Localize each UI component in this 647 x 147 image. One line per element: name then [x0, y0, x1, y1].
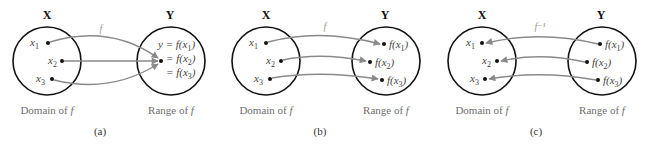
svg-text:x3: x3	[469, 72, 479, 87]
set-y-title: Y	[166, 8, 175, 22]
inverse-function-label: f⁻¹	[534, 21, 545, 32]
set-x-title: X	[262, 8, 271, 22]
set-y-title: Y	[381, 8, 390, 22]
panel-b: X Y x1 x2 x3 f f(x1) f(x2) f(x	[232, 8, 420, 138]
panel-label: (a)	[94, 125, 107, 138]
domain-element-x3: x3	[469, 72, 487, 87]
range-element-fx2: f(x2)	[585, 56, 612, 71]
range-caption: Range of f	[363, 104, 411, 116]
range-element-fx1: f(x1)	[598, 38, 625, 53]
domain-element-x3: x3	[35, 72, 54, 87]
range-caption: Range of f	[148, 104, 196, 116]
function-mapping-figure: X Y x1 x2 x3 f y = f(x1) = f(x2) = f(x3)…	[0, 0, 647, 147]
function-label: f	[100, 23, 104, 34]
set-x-title: X	[478, 8, 487, 22]
svg-text:f(x1): f(x1)	[389, 38, 409, 53]
range-element-fx3: f(x3)	[596, 74, 623, 89]
svg-text:x2: x2	[265, 54, 275, 69]
domain-element-x1: x1	[465, 36, 484, 51]
panel-a: X Y x1 x2 x3 f y = f(x1) = f(x2) = f(x3)…	[13, 8, 205, 138]
range-element-fx1: f(x1)	[382, 38, 409, 53]
domain-element-x2: x2	[47, 54, 64, 69]
range-element-2: = f(x2)	[166, 52, 196, 67]
arrow-x1-to-y	[50, 36, 158, 58]
set-x-title: X	[43, 8, 52, 22]
panel-c: X Y x1 x2 x3 f⁻¹ f(x1) f(x2) f	[448, 8, 636, 138]
svg-text:x1: x1	[248, 36, 258, 51]
domain-element-x1: x1	[29, 36, 50, 51]
domain-caption: Domain of f	[20, 104, 75, 116]
range-element-fx2: f(x2)	[368, 56, 395, 71]
svg-text:f(x3): f(x3)	[603, 74, 623, 89]
domain-element-x2: x2	[481, 54, 499, 69]
arrow-fx3-to-x3	[489, 75, 596, 80]
domain-element-x2: x2	[265, 54, 283, 69]
svg-text:f(x3): f(x3)	[387, 74, 407, 89]
svg-text:f(x1): f(x1)	[605, 38, 625, 53]
arrow-x3-to-y	[54, 64, 158, 84]
range-element-3: = f(x3)	[166, 66, 196, 81]
range-element-1: y = f(x1)	[157, 38, 195, 53]
function-label: f	[324, 21, 328, 32]
svg-text:x1: x1	[465, 36, 475, 51]
svg-text:x3: x3	[253, 72, 263, 87]
svg-text:f(x2): f(x2)	[375, 56, 395, 71]
arrow-x3-to-fx3	[272, 74, 378, 79]
domain-element-x1: x1	[248, 36, 268, 51]
domain-caption: Domain of f	[455, 104, 510, 116]
svg-text:x2: x2	[481, 54, 491, 69]
domain-caption: Domain of f	[239, 104, 294, 116]
range-caption: Range of f	[579, 104, 627, 116]
range-point	[159, 59, 163, 63]
set-y-title: Y	[597, 8, 606, 22]
domain-element-x3: x3	[253, 72, 272, 87]
panel-label: (c)	[530, 125, 543, 138]
svg-text:x3: x3	[35, 72, 45, 87]
arrow-x2-to-fx2	[283, 56, 366, 61]
svg-text:x2: x2	[47, 54, 57, 69]
svg-text:f(x2): f(x2)	[592, 56, 612, 71]
range-element-fx3: f(x3)	[380, 74, 407, 89]
svg-text:x1: x1	[29, 36, 39, 51]
arrow-fx1-to-x1	[486, 37, 598, 44]
panel-label: (b)	[314, 125, 327, 138]
arrow-fx2-to-x2	[501, 57, 585, 62]
